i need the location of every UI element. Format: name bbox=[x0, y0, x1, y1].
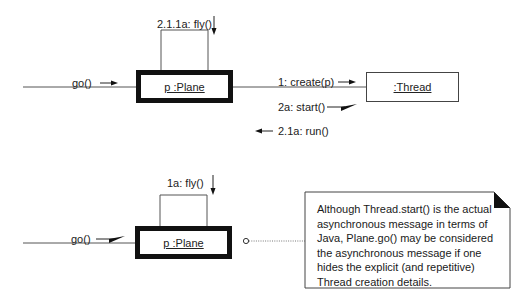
top-fly-message-label: 2.1.1a: fly() bbox=[157, 18, 212, 30]
note-anchor-icon bbox=[243, 238, 248, 243]
start-message-label: 2a: start() bbox=[278, 101, 325, 113]
bottom-fly-arrow-icon bbox=[211, 188, 216, 195]
bottom-plane-object-label: p :Plane bbox=[163, 237, 203, 249]
top-plane-object-label: p :Plane bbox=[164, 81, 204, 93]
top-self-loop bbox=[161, 30, 208, 70]
note-comment: Although Thread.start() is the actual as… bbox=[305, 192, 510, 288]
bottom-plane-object[interactable]: p :Plane bbox=[135, 226, 232, 259]
start-arrow-icon bbox=[341, 104, 357, 111]
run-arrow-icon bbox=[255, 129, 262, 134]
thread-object-label: :Thread bbox=[394, 81, 432, 93]
run-message-label: 2.1a: run() bbox=[278, 125, 329, 137]
bottom-self-loop bbox=[160, 195, 207, 226]
top-plane-object[interactable]: p :Plane bbox=[136, 70, 233, 103]
bottom-go-message-label: go() bbox=[71, 233, 91, 245]
create-arrow-icon bbox=[349, 80, 356, 85]
top-go-message-label: go() bbox=[72, 77, 92, 89]
top-go-arrow-icon bbox=[111, 81, 118, 86]
thread-object[interactable]: :Thread bbox=[366, 72, 459, 102]
top-fly-arrow-icon bbox=[212, 28, 217, 35]
bottom-go-arrow-icon bbox=[109, 236, 125, 243]
bottom-fly-message-label: 1a: fly() bbox=[167, 177, 204, 189]
create-message-label: 1: create(p) bbox=[278, 76, 334, 88]
